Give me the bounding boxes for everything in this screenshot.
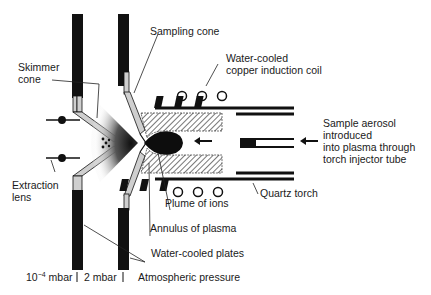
induction-coil-upper bbox=[154, 92, 226, 109]
label-skimmer-line2: cone bbox=[18, 73, 41, 85]
label-atmospheric-pressure: Atmospheric pressure bbox=[138, 271, 240, 283]
label-aerosol-line2: introduced bbox=[323, 129, 372, 141]
svg-text:10−4 mbar: 10−4 mbar bbox=[26, 271, 73, 283]
label-quartz-torch: Quartz torch bbox=[260, 187, 318, 199]
sampling-plate-upper bbox=[118, 14, 145, 134]
label-plume-of-ions: Plume of ions bbox=[165, 197, 229, 209]
label-coil-line2: copper induction coil bbox=[226, 64, 322, 76]
label-2-mbar: 2 mbar bbox=[84, 271, 117, 283]
icp-ms-interface-diagram: Sampling cone Water-cooled copper induct… bbox=[0, 0, 431, 295]
label-skimmer-line1: Skimmer bbox=[18, 61, 60, 73]
injector-tube bbox=[240, 139, 294, 147]
flow-arrow-torch bbox=[194, 137, 212, 145]
label-aerosol-line3: into plasma through bbox=[323, 141, 415, 153]
label-aerosol-line1: Sample aerosol bbox=[323, 117, 396, 129]
label-aerosol-line4: torch injector tube bbox=[323, 153, 407, 165]
label-sampling-cone: Sampling cone bbox=[150, 25, 220, 37]
label-annulus-of-plasma: Annulus of plasma bbox=[150, 222, 237, 234]
label-extraction-line1: Extraction bbox=[12, 179, 59, 191]
plasma-annulus-lower bbox=[141, 148, 222, 173]
label-coil-line1: Water-cooled bbox=[226, 52, 288, 64]
label-water-cooled-plates: Water-cooled plates bbox=[151, 247, 244, 259]
pressure-zones: 10−4 mbar 2 mbar Atmospheric pressure bbox=[26, 271, 240, 283]
extraction-lens bbox=[46, 117, 80, 161]
ion-expansion-cloud bbox=[91, 105, 138, 182]
flow-arrow-aerosol bbox=[300, 137, 318, 145]
plasma-annulus-upper bbox=[141, 113, 222, 138]
sampling-plate-lower bbox=[118, 152, 145, 270]
label-extraction-line2: lens bbox=[12, 191, 31, 203]
